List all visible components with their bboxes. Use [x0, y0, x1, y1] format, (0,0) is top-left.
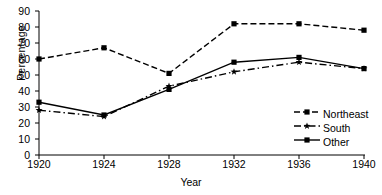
legend-label-other: Other — [323, 136, 349, 148]
legend-label-south: South — [323, 122, 350, 134]
plot-area — [0, 0, 382, 195]
line-chart: Percentage Year 90 80 70 60 50 40 30 20 … — [0, 0, 382, 195]
legend-label-northeast: Northeast — [323, 108, 369, 120]
